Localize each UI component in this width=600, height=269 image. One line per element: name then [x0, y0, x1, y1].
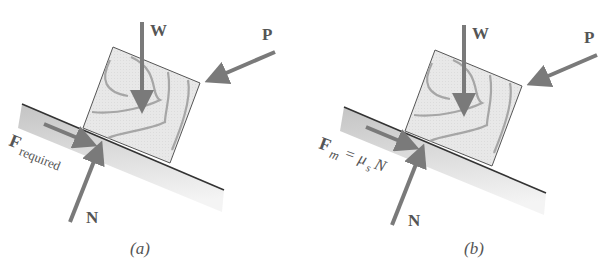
friction-eq-tail: N [371, 155, 389, 175]
panel-b: W P N F m = μ s N (b) [315, 24, 597, 258]
friction-label-sub: required [17, 143, 63, 173]
diagram-canvas: W P N F required (a) [0, 0, 600, 269]
friction-eq: = μ [342, 144, 370, 169]
push-label: P [584, 28, 594, 47]
push-label: P [262, 25, 272, 44]
friction-label-sub: m [327, 146, 341, 163]
normal-label: N [408, 211, 421, 230]
friction-diagram: W P N F required (a) [0, 0, 600, 269]
push-arrow [210, 52, 275, 80]
normal-label: N [86, 208, 99, 227]
caption-a: (a) [130, 239, 150, 258]
caption-b: (b) [464, 239, 484, 258]
push-arrow [532, 55, 597, 83]
weight-label: W [472, 24, 489, 43]
weight-label: W [150, 21, 167, 40]
panel-a: W P N F required (a) [5, 21, 275, 258]
friction-eq-sub: s [364, 161, 372, 174]
